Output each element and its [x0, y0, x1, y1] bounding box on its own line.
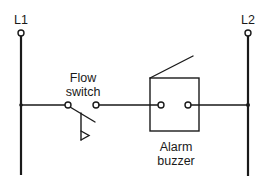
junction-l2-dot-icon: [246, 103, 250, 107]
buzzer-label-line1: Alarm: [160, 140, 193, 154]
flow-switch: Flow switch: [65, 71, 100, 140]
switch-left-terminal-icon: [65, 102, 71, 108]
rail-l2-terminal-icon: [245, 30, 251, 36]
rail-l2: L2: [241, 13, 255, 176]
buzzer-diagonal: [150, 56, 193, 78]
flow-switch-label-line2: switch: [66, 85, 101, 99]
rail-l1-terminal-icon: [18, 30, 24, 36]
buzzer-left-terminal-icon: [158, 102, 164, 108]
buzzer-label-line2: buzzer: [157, 154, 195, 168]
flow-switch-label-line1: Flow: [70, 71, 97, 85]
alarm-buzzer: Alarm buzzer: [150, 56, 199, 168]
flow-paddle-flag-icon: [81, 131, 89, 140]
rail-l1-label: L1: [14, 13, 28, 27]
buzzer-right-terminal-icon: [185, 102, 191, 108]
switch-blade: [70, 107, 95, 122]
rail-l1: L1: [14, 13, 28, 175]
wiring-diagram: L1 L2 Flow switch Alarm buzzer: [0, 0, 266, 184]
switch-right-terminal-icon: [93, 102, 99, 108]
junction-l1-dot-icon: [19, 103, 23, 107]
rail-l2-label: L2: [241, 13, 255, 27]
